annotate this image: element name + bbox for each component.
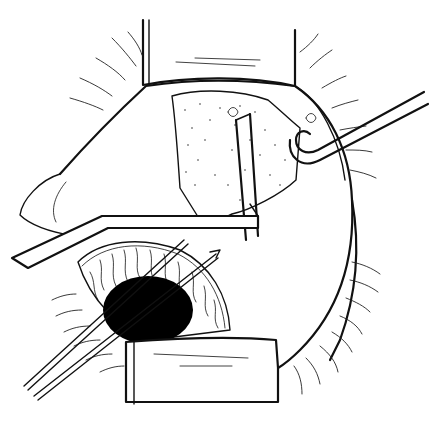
stippled-scleral-flap: [172, 91, 300, 228]
illustration-svg: [0, 0, 445, 423]
lower-eyelid-retractor: [126, 338, 278, 404]
surgical-eye-illustration: [0, 0, 445, 423]
upper-eyelid-retractor: [143, 20, 295, 86]
hook-instrument: [290, 92, 428, 163]
